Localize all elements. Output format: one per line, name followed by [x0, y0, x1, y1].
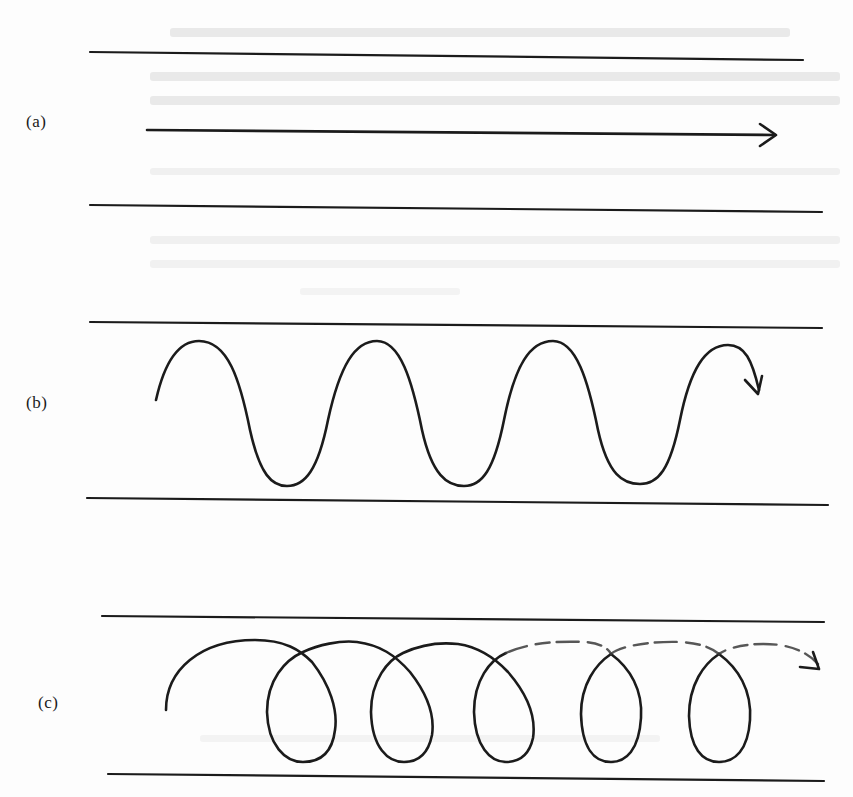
panel-b-sinusoidal-path — [156, 341, 759, 486]
panel-c-arrowhead-icon — [800, 652, 819, 669]
panel-a-straight-path — [147, 130, 775, 135]
panel-a-bottom-boundary — [90, 205, 822, 212]
panel-a-top-boundary — [90, 52, 803, 60]
panel-b-arrowhead-icon — [745, 376, 762, 394]
panel-b-bottom-boundary — [87, 498, 828, 505]
panel-c — [102, 616, 824, 781]
panel-c-top-boundary — [102, 616, 824, 622]
panel-c-helical-path — [166, 640, 534, 762]
panel-c-bottom-boundary — [108, 774, 824, 781]
figure-drawing — [0, 0, 853, 797]
panel-c-faded-top-arc — [506, 642, 818, 664]
figure-page: (a) (b) (c) — [0, 0, 853, 797]
panel-c-loop-5 — [689, 654, 750, 762]
panel-b — [87, 322, 828, 505]
panel-b-top-boundary — [90, 322, 822, 328]
panel-a — [90, 52, 822, 212]
panel-c-loop-4 — [581, 654, 641, 762]
